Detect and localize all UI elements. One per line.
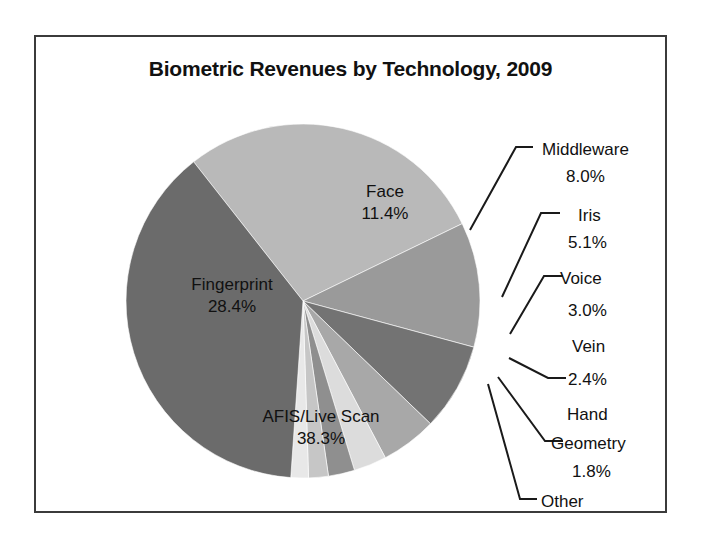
callout-vein-value: 2.4% [568,370,607,389]
callout-iris-value: 5.1% [568,233,607,252]
callout-voice-value: 3.0% [568,301,607,320]
callout-voice-name: Voice [560,269,602,288]
pie-label-afis-name: AFIS/Live Scan [262,407,379,426]
leader-line-vein [509,358,566,378]
callout-hand-value: 1.8% [572,462,611,481]
pie-label-face-name: Face [366,182,404,201]
callout-middleware-value: 8.0% [566,167,605,186]
callout-hand-line2: Geometry [551,434,626,453]
callout-hand-line1: Hand [567,405,608,424]
pie-label-fingerprint-value: 28.4% [208,297,256,316]
callout-other-name: Other [541,492,584,511]
callout-label-group: Middleware 8.0% Iris 5.1% Voice 3.0% Vei… [541,140,629,511]
leader-line-voice [510,276,563,334]
leader-line-iris [502,213,560,297]
callout-middleware-name: Middleware [542,140,629,159]
leader-line-other [488,384,537,499]
pie-chart: Face 11.4% Fingerprint 28.4% AFIS/Live S… [36,37,665,511]
chart-frame: Biometric Revenues by Technology, 2009 [34,35,667,513]
pie-label-face-value: 11.4% [362,204,409,223]
screenshot-page: Biometric Revenues by Technology, 2009 [0,0,702,538]
pie-label-afis-value: 38.3% [297,429,345,448]
leader-line-middleware [470,147,533,230]
callout-vein-name: Vein [572,337,605,356]
pie-label-fingerprint-name: Fingerprint [191,275,273,294]
leader-line-hand-geometry [498,377,563,441]
callout-iris-name: Iris [578,206,601,225]
